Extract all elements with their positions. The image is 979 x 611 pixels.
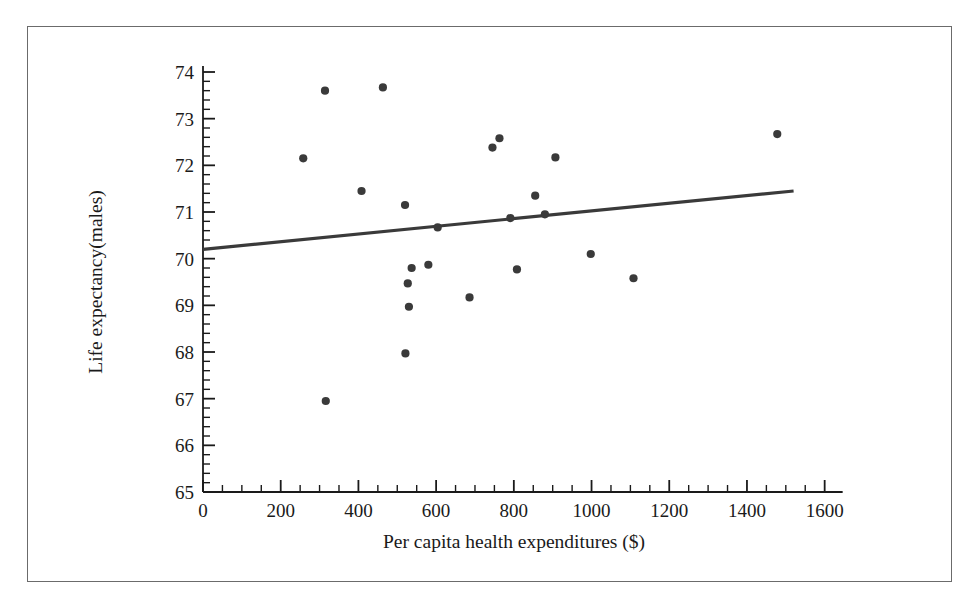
scatter-point (773, 130, 781, 138)
y-axis-minor-ticks (203, 81, 210, 482)
y-tick-label: 67 (175, 389, 194, 410)
scatter-point (488, 144, 496, 152)
y-tick-label: 71 (175, 202, 194, 223)
scatter-point (321, 87, 329, 95)
scatter-point (531, 192, 539, 200)
x-tick-label: 1600 (806, 500, 844, 521)
scatter-point (401, 349, 409, 357)
y-tick-label: 70 (175, 249, 194, 270)
y-axis-major-ticks (203, 72, 215, 492)
x-tick-label: 0 (198, 500, 208, 521)
scatter-point (629, 274, 637, 282)
scatter-point (322, 397, 330, 405)
scatter-point (357, 187, 365, 195)
scatter-point (506, 214, 514, 222)
scatter-point (551, 153, 559, 161)
x-axis-tick-labels: 02004006008001000120014001600 (198, 500, 843, 521)
scatter-point (379, 83, 387, 91)
scatter-data-points (299, 83, 781, 405)
regression-trend-line (203, 191, 794, 249)
y-tick-label: 73 (175, 109, 194, 130)
y-axis-title: Life expectancy(males) (85, 190, 107, 374)
scatter-point (587, 250, 595, 258)
y-axis-tick-labels: 65666768697071727374 (175, 62, 195, 503)
y-tick-label: 65 (175, 482, 194, 503)
y-tick-label: 69 (175, 295, 194, 316)
scatter-point (405, 303, 413, 311)
scatter-point (434, 223, 442, 231)
x-tick-label: 1000 (573, 500, 611, 521)
x-axis-title: Per capita health expenditures ($) (383, 531, 645, 553)
x-tick-label: 1400 (728, 500, 766, 521)
figure-root: 65666768697071727374 0200400600800100012… (0, 0, 979, 611)
y-tick-label: 68 (175, 342, 194, 363)
scatter-point (541, 210, 549, 218)
scatter-point (465, 293, 473, 301)
scatter-point (408, 264, 416, 272)
scatter-point (401, 201, 409, 209)
scatter-plot-svg: 65666768697071727374 0200400600800100012… (0, 0, 979, 611)
x-tick-label: 1200 (650, 500, 688, 521)
y-tick-label: 74 (175, 62, 195, 83)
x-tick-label: 200 (266, 500, 295, 521)
scatter-point (424, 261, 432, 269)
scatter-point (495, 134, 503, 142)
scatter-point (513, 265, 521, 273)
x-tick-label: 800 (500, 500, 529, 521)
y-tick-label: 66 (175, 435, 194, 456)
y-tick-label: 72 (175, 155, 194, 176)
x-tick-label: 400 (344, 500, 373, 521)
scatter-point (299, 154, 307, 162)
x-tick-label: 600 (422, 500, 451, 521)
scatter-point (404, 279, 412, 287)
x-axis-major-ticks (203, 480, 825, 492)
